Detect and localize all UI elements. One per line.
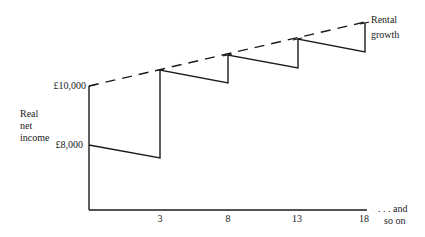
- x-tick-18: 18: [359, 213, 369, 224]
- diagram-canvas: £10,000 £8,000 Real net income 3 8 13 18…: [0, 0, 425, 237]
- rental-growth-label-line1: Rental: [371, 14, 397, 25]
- rental-growth-line: [89, 22, 365, 86]
- and-so-on-line1: . . . and: [378, 203, 407, 214]
- rental-growth-label-line2: growth: [371, 29, 399, 40]
- y-tick-8000: £8,000: [56, 139, 84, 150]
- and-so-on-line2: so on: [384, 215, 405, 226]
- x-tick-8: 8: [226, 213, 231, 224]
- x-tick-3: 3: [158, 213, 163, 224]
- real-net-income-line: [89, 23, 365, 158]
- y-tick-10000: £10,000: [54, 80, 87, 91]
- y-axis-title-line3: income: [20, 132, 50, 143]
- axes: [89, 86, 367, 210]
- x-tick-13: 13: [292, 213, 302, 224]
- rental-growth-diagram: £10,000 £8,000 Real net income 3 8 13 18…: [0, 0, 425, 237]
- y-axis-title-line1: Real: [20, 108, 39, 119]
- y-axis-title-line2: net: [20, 120, 32, 131]
